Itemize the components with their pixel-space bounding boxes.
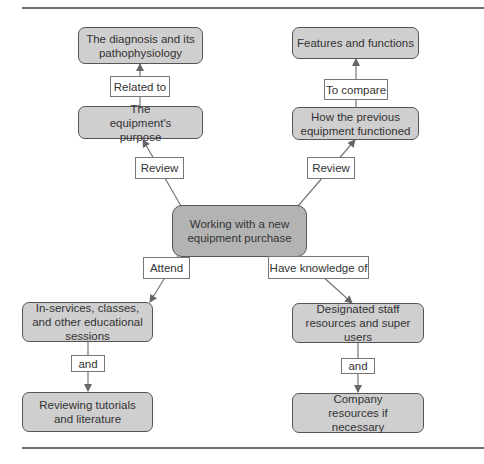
edge-label-attend: Attend bbox=[143, 257, 190, 279]
node-designated-staff-text: Designated staff resources and super use… bbox=[295, 302, 421, 344]
node-center: Working with a new equipment purchase bbox=[172, 205, 307, 257]
edge-label-have-knowledge: Have knowledge of bbox=[268, 256, 369, 279]
node-features: Features and functions bbox=[292, 27, 419, 59]
edge-label-and-right: and bbox=[341, 358, 375, 374]
node-center-text: Working with a new equipment purchase bbox=[185, 217, 295, 245]
node-diagnosis-text: The diagnosis and its pathophysiology bbox=[81, 32, 200, 60]
node-company: Company resources if necessary bbox=[292, 393, 424, 433]
node-inservices-text: In-services, classes, and other educatio… bbox=[25, 301, 150, 343]
node-reviewing-text: Reviewing tutorials and literature bbox=[38, 398, 138, 426]
node-inservices: In-services, classes, and other educatio… bbox=[22, 302, 153, 342]
node-features-text: Features and functions bbox=[297, 36, 414, 50]
node-designated-staff: Designated staff resources and super use… bbox=[292, 303, 424, 343]
node-diagnosis: The diagnosis and its pathophysiology bbox=[78, 27, 203, 64]
node-previous-equipment: How the previous equipment functioned bbox=[292, 107, 419, 140]
edge-label-to-compare: To compare bbox=[324, 79, 388, 100]
edge-label-related-to: Related to bbox=[110, 76, 170, 97]
node-previous-equipment-text: How the previous equipment functioned bbox=[297, 110, 415, 138]
node-reviewing: Reviewing tutorials and literature bbox=[22, 392, 153, 432]
node-equipment-purpose: The equipment's purpose bbox=[78, 106, 203, 139]
edge-label-and-left: and bbox=[71, 355, 105, 372]
edge-label-review-right: Review bbox=[307, 157, 355, 179]
node-company-text: Company resources if necessary bbox=[308, 392, 408, 434]
edge-label-review-left: Review bbox=[135, 157, 184, 179]
node-equipment-purpose-text: The equipment's purpose bbox=[101, 102, 181, 144]
